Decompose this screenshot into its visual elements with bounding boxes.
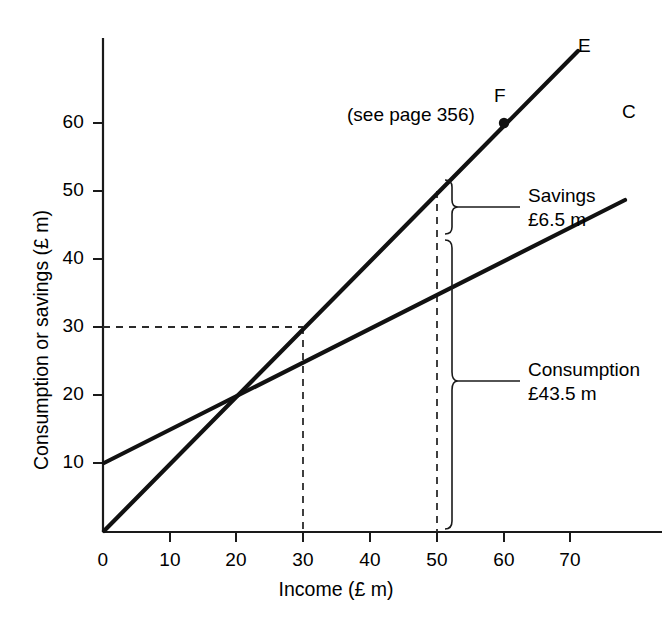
x-axis-ticks — [170, 532, 570, 542]
savings-brace — [445, 180, 520, 234]
x-tick-label-50: 50 — [417, 549, 457, 571]
chart-figure: 60 50 40 30 20 10 0 10 20 30 40 50 60 70… — [0, 0, 672, 618]
x-tick-label-0: 0 — [83, 549, 123, 571]
consumption-annotation-value: £43.5 m — [528, 382, 597, 406]
x-tick-label-70: 70 — [550, 549, 590, 571]
series-label-e: E — [578, 35, 591, 57]
y-tick-label-60: 60 — [36, 111, 84, 133]
y-axis-title: Consumption or savings (£ m) — [30, 210, 53, 470]
chart-plot-area — [0, 0, 672, 618]
y-tick-label-50: 50 — [36, 179, 84, 201]
y-axis-ticks — [93, 123, 103, 463]
x-axis-title: Income (£ m) — [0, 578, 672, 601]
x-tick-label-40: 40 — [350, 549, 390, 571]
consumption-annotation-title: Consumption — [528, 358, 640, 382]
data-point-f — [499, 118, 509, 128]
x-tick-label-20: 20 — [216, 549, 256, 571]
x-tick-label-30: 30 — [283, 549, 323, 571]
x-tick-label-60: 60 — [484, 549, 524, 571]
page-reference-note: (see page 356) — [347, 103, 475, 127]
savings-annotation-value: £6.5 m — [528, 208, 586, 232]
savings-annotation-title: Savings — [528, 184, 596, 208]
series-label-c: C — [622, 101, 636, 123]
x-tick-label-10: 10 — [150, 549, 190, 571]
point-label-f: F — [494, 85, 506, 107]
series-line-c — [104, 200, 625, 463]
